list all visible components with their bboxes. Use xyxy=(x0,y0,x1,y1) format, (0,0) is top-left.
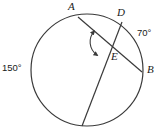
chord-a-b xyxy=(78,17,142,72)
point-label-e: E xyxy=(111,51,118,62)
angle-e-double-arrow-icon xyxy=(90,31,97,56)
point-label-b: B xyxy=(147,64,154,75)
geometry-figure: A D E B 70° 150° xyxy=(0,0,160,133)
point-label-a: A xyxy=(68,1,75,12)
arc-measure-150: 150° xyxy=(2,63,22,73)
diagram-canvas xyxy=(0,0,160,133)
main-circle xyxy=(31,14,143,126)
arc-measure-70: 70° xyxy=(137,28,151,38)
point-label-d: D xyxy=(117,7,125,18)
